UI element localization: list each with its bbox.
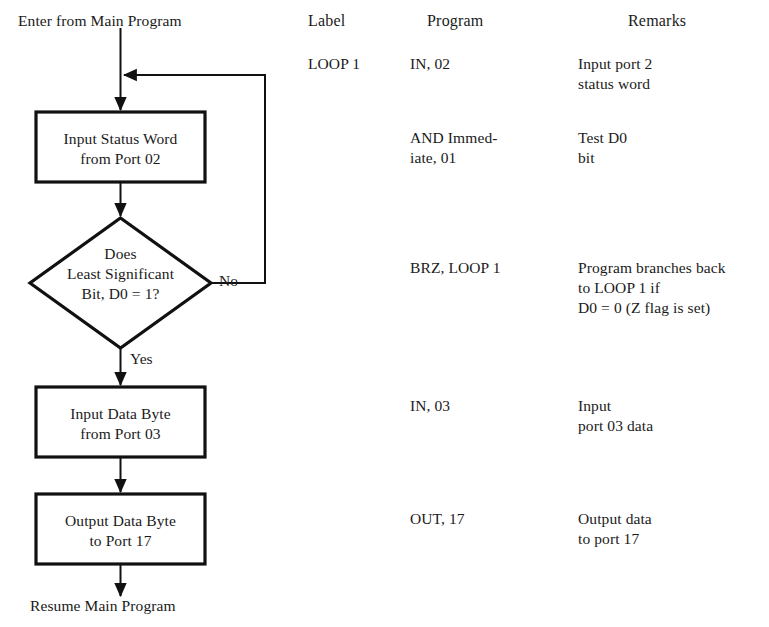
cell-label: LOOP 1 <box>308 54 360 74</box>
cell-program: BRZ, LOOP 1 <box>410 258 501 278</box>
cell-program: OUT, 17 <box>410 509 465 529</box>
flowchart-page: Enter from Main Program Input Status Wor… <box>0 0 769 627</box>
cell-program: IN, 03 <box>410 396 450 416</box>
column-header-program: Program <box>427 12 484 30</box>
cell-program: IN, 02 <box>410 54 450 74</box>
program-listing: Label Program Remarks LOOP 1 IN, 02 Inpu… <box>0 0 769 627</box>
cell-remarks: Output data to port 17 <box>578 509 652 549</box>
cell-remarks: Program branches back to LOOP 1 if D0 = … <box>578 258 726 318</box>
cell-remarks: Input port 03 data <box>578 396 653 436</box>
cell-program: AND Immed- iate, 01 <box>410 128 498 168</box>
column-header-label: Label <box>308 12 345 30</box>
column-header-remarks: Remarks <box>628 12 686 30</box>
cell-remarks: Test D0 bit <box>578 128 627 168</box>
cell-remarks: Input port 2 status word <box>578 54 652 94</box>
